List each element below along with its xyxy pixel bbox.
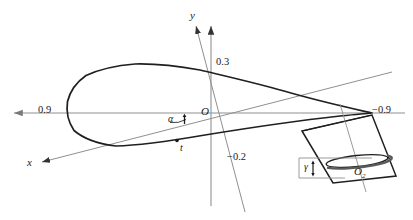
duct-box xyxy=(302,115,396,183)
rotated-y-axis xyxy=(196,26,245,212)
angle-alpha-label: α xyxy=(168,114,173,124)
airfoil-outline xyxy=(67,64,372,146)
rotated-x-axis xyxy=(42,72,392,162)
chord-point-label-t: t xyxy=(180,143,183,153)
rotated-x-axis-label: x xyxy=(27,157,32,168)
tick-label-right-minus09: −0.9 xyxy=(372,105,391,116)
chord-point-t-marker xyxy=(175,139,179,143)
duct-center-sub: 2 xyxy=(362,172,366,180)
duct-center-letter: O xyxy=(354,165,362,177)
origin-label: O xyxy=(201,106,209,117)
rotated-y-axis-label: y xyxy=(190,10,195,21)
duct-center-label: O2 xyxy=(354,166,365,180)
tick-label-top-03: 0.3 xyxy=(216,57,229,68)
airfoil-diagram-figure: 0.9 −0.9 0.3 −0.2 y x O α t γ O2 xyxy=(0,0,413,220)
tick-label-bottom-minus02: −0.2 xyxy=(227,152,246,163)
angle-gamma-label: γ xyxy=(304,162,308,172)
tick-label-left-09: 0.9 xyxy=(38,105,51,116)
